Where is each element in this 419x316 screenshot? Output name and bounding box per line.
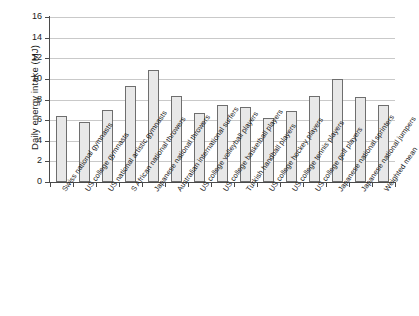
gridline (50, 79, 395, 80)
y-tick-label: 12 (16, 52, 42, 62)
y-tick-label: 8 (16, 94, 42, 104)
y-tick-label: 16 (16, 11, 42, 21)
y-tick-label: 2 (16, 155, 42, 165)
gridline (50, 17, 395, 18)
y-tick-label: 6 (16, 114, 42, 124)
gridline (50, 100, 395, 101)
x-tick-mark (50, 183, 51, 187)
y-tick-label: 14 (16, 32, 42, 42)
gridline (50, 38, 395, 39)
y-tick-label: 4 (16, 135, 42, 145)
bar (56, 116, 67, 182)
y-tick-label: 10 (16, 73, 42, 83)
y-tick-label: 0 (16, 176, 42, 186)
gridline (50, 58, 395, 59)
